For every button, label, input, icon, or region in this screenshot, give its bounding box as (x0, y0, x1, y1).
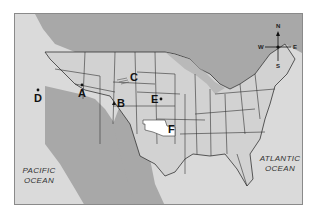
marker-e-label: E (151, 94, 158, 105)
marker-d-label: D (34, 93, 42, 104)
marker-f-label: F (168, 124, 175, 135)
map-frame: A B C D E F PACIFIC OCEAN ATLANTIC OCEAN… (14, 13, 303, 205)
compass-n: N (276, 23, 280, 29)
marker-b-label: B (117, 98, 125, 109)
marker-c-label: C (130, 72, 138, 83)
atlantic-ocean-label: ATLANTIC OCEAN (257, 154, 303, 173)
compass-s: S (276, 63, 280, 69)
compass-w: W (258, 44, 264, 50)
pacific-ocean-label: PACIFIC OCEAN (19, 166, 59, 185)
marker-a-label: A (78, 88, 86, 99)
compass-e: E (293, 44, 297, 50)
